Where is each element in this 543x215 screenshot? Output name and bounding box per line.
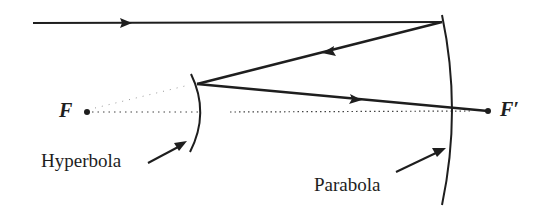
parabola-mirror bbox=[442, 15, 452, 205]
focus-f-label: F bbox=[59, 99, 72, 122]
virtual-ray-extension bbox=[95, 86, 185, 108]
hyperbola-label: Hyperbola bbox=[41, 150, 121, 172]
hyperbola-pointer bbox=[148, 146, 180, 163]
ray-to-focus bbox=[197, 84, 488, 111]
parabola-label: Parabola bbox=[314, 174, 380, 196]
hyperbola-mirror bbox=[190, 74, 200, 152]
focus-f-prime-label: F′ bbox=[500, 98, 519, 121]
arrow-head-icon bbox=[432, 148, 446, 157]
incoming-ray bbox=[33, 22, 442, 23]
focus-f-prime-dot bbox=[485, 108, 491, 114]
focus-f-dot bbox=[84, 109, 90, 115]
telescope-diagram bbox=[0, 0, 543, 215]
optical-axis-right bbox=[230, 111, 470, 112]
reflected-ray bbox=[197, 22, 442, 84]
parabola-pointer bbox=[396, 152, 438, 172]
arrow-head-icon bbox=[174, 141, 187, 151]
